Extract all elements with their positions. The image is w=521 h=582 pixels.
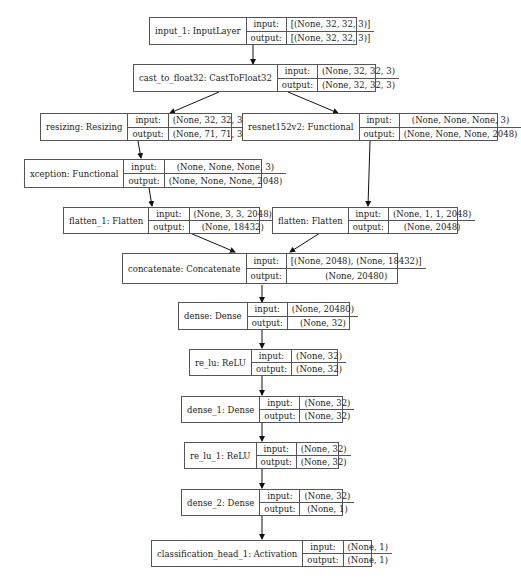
output-label: output:	[247, 32, 286, 45]
node-name: resnet152v2: Functional	[243, 114, 360, 140]
output-shape: (None, 2048)	[389, 221, 475, 233]
output-shape: (None, None, None, 2048)	[165, 174, 287, 187]
output-label: output:	[247, 269, 286, 283]
output-shape: (None, 32)	[300, 410, 354, 422]
edge-flatten-concatenate	[290, 233, 320, 252]
node-name: re_lu: ReLU	[190, 350, 252, 375]
input-label: input:	[349, 208, 388, 221]
edge-flatten_1-concatenate	[190, 233, 235, 252]
node-name: dense_2: Dense	[182, 490, 260, 515]
node-flatten_1: flatten_1: Flatten input:output: (None, …	[63, 207, 260, 234]
output-label: output:	[252, 363, 291, 375]
output-shape: (None, 71, 71, 3)	[169, 128, 250, 141]
node-dense_1: dense_1: Dense input:output: (None, 32)(…	[181, 396, 343, 423]
output-shape: (None, 18432)	[190, 221, 276, 233]
node-xception: xception: Functional input:output: (None…	[24, 159, 262, 188]
output-shape: (None, 32)	[297, 456, 351, 468]
input-shape: (None, 3, 3, 2048)	[190, 208, 276, 221]
node-name: dense_1: Dense	[182, 397, 260, 422]
input-label: input:	[248, 303, 287, 317]
input-label: input:	[257, 443, 296, 456]
input-shape: (None, 32, 32, 3)	[318, 65, 399, 79]
input-label: input:	[247, 254, 286, 269]
input-shape: (None, 32)	[300, 490, 354, 503]
node-name: dense: Dense	[179, 303, 248, 329]
input-shape: [(None, 2048), (None, 18432)]	[287, 254, 426, 269]
output-label: output:	[260, 503, 299, 515]
input-shape: (None, None, None, 3)	[165, 160, 287, 174]
output-shape: (None, 1)	[344, 554, 393, 566]
edge-cast-resizing	[170, 92, 219, 113]
input-label: input:	[303, 541, 342, 554]
node-cast_to_float32: cast_to_float32: CastToFloat32 input:out…	[133, 64, 376, 92]
input-shape: (None, 32)	[292, 350, 346, 363]
node-name: xception: Functional	[25, 160, 124, 187]
node-name: classification_head_1: Activation	[152, 541, 303, 566]
output-shape: [(None, 32, 32, 3)]	[287, 32, 375, 45]
input-shape: (None, 32)	[297, 443, 351, 456]
output-shape: (None, 32, 32, 3)	[318, 79, 399, 92]
output-label: output:	[128, 128, 167, 141]
output-label: output:	[260, 410, 299, 422]
node-dense_2: dense_2: Dense input:output: (None, 32)(…	[181, 489, 343, 516]
input-label: input:	[128, 114, 167, 128]
node-re_lu_1: re_lu_1: ReLU input:output: (None, 32)(N…	[184, 442, 339, 469]
edge-cast-resnet	[288, 92, 338, 113]
output-label: output:	[360, 128, 399, 141]
output-shape: (None, 32)	[288, 317, 358, 330]
node-input_1: input_1: InputLayer input:output: [(None…	[149, 17, 357, 45]
node-name: flatten_1: Flatten	[64, 208, 149, 233]
input-shape: (None, 20480)	[288, 303, 358, 317]
output-label: output:	[124, 174, 163, 187]
output-label: output:	[349, 221, 388, 233]
edge-resnet-flatten	[368, 141, 370, 206]
node-name: re_lu_1: ReLU	[185, 443, 257, 468]
input-label: input:	[124, 160, 163, 174]
output-shape: (None, None, None, 2048)	[400, 128, 521, 141]
input-shape: [(None, 32, 32, 3)]	[287, 18, 375, 32]
node-re_lu: re_lu: ReLU input:output: (None, 32)(Non…	[189, 349, 338, 376]
input-label: input:	[247, 18, 286, 32]
node-resnet152v2: resnet152v2: Functional input:output: (N…	[242, 113, 498, 141]
node-flatten: flatten: Flatten input:output: (None, 1,…	[272, 207, 458, 234]
output-shape: (None, 20480)	[287, 269, 426, 283]
input-label: input:	[149, 208, 188, 221]
output-label: output:	[278, 79, 317, 92]
node-classification_head_1: classification_head_1: Activation input:…	[151, 540, 372, 567]
output-shape: (None, 32)	[292, 363, 346, 375]
node-name: cast_to_float32: CastToFloat32	[134, 65, 278, 91]
node-name: resizing: Resizing	[41, 114, 128, 140]
edge-xception-flatten_1	[149, 188, 152, 206]
input-label: input:	[252, 350, 291, 363]
input-label: input:	[278, 65, 317, 79]
node-resizing: resizing: Resizing input:output: (None, …	[40, 113, 232, 141]
output-label: output:	[149, 221, 188, 233]
node-name: flatten: Flatten	[273, 208, 349, 233]
output-label: output:	[248, 317, 287, 330]
input-shape: (None, 32, 32, 3)	[169, 114, 250, 128]
node-name: concatenate: Concatenate	[123, 254, 247, 283]
output-label: output:	[257, 456, 296, 468]
input-shape: (None, 1)	[344, 541, 393, 554]
input-shape: (None, 32)	[300, 397, 354, 410]
node-concatenate: concatenate: Concatenate input:output: […	[122, 253, 398, 284]
output-shape: (None, 1)	[300, 503, 354, 515]
input-label: input:	[260, 490, 299, 503]
input-label: input:	[260, 397, 299, 410]
node-name: input_1: InputLayer	[150, 18, 247, 44]
edge-resizing-xception	[138, 141, 141, 158]
node-dense: dense: Dense input:output: (None, 20480)…	[178, 302, 350, 330]
output-label: output:	[303, 554, 342, 566]
input-shape: (None, 1, 1, 2048)	[389, 208, 475, 221]
input-label: input:	[360, 114, 399, 128]
input-shape: (None, None, None, 3)	[400, 114, 521, 128]
